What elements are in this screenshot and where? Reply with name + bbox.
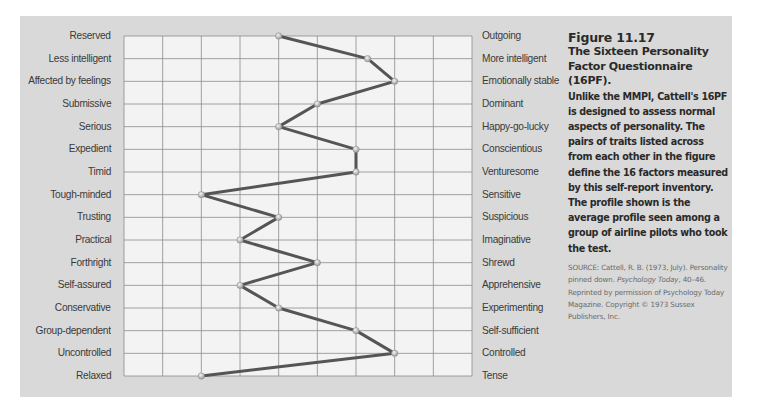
- right-trait-label: Experimenting: [482, 300, 543, 314]
- right-trait-label: Tense: [482, 368, 508, 382]
- data-point-marker: [353, 169, 359, 175]
- left-trait-label: Expedient: [68, 141, 111, 155]
- left-trait-label: Less intelligent: [48, 51, 111, 65]
- left-trait-label: Practical: [75, 232, 111, 246]
- right-trait-label: Emotionally stable: [482, 73, 559, 87]
- data-point-marker: [275, 33, 281, 39]
- left-trait-label: Group-dependent: [36, 323, 111, 337]
- data-point-marker: [364, 55, 370, 61]
- right-trait-label: Self-sufficient: [482, 323, 538, 337]
- right-trait-label: Controlled: [482, 345, 525, 359]
- right-trait-label: Shrewd: [482, 255, 515, 269]
- left-trait-label: Relaxed: [76, 368, 111, 382]
- data-point-marker: [275, 123, 281, 129]
- data-point-marker: [353, 146, 359, 152]
- right-trait-label: Venturesome: [482, 164, 539, 178]
- data-point-marker: [353, 327, 359, 333]
- figure-title: The Sixteen Personality Factor Questionn…: [568, 45, 730, 89]
- left-trait-label: Tough-minded: [50, 187, 111, 201]
- left-trait-label: Affected by feelings: [28, 73, 111, 87]
- right-trait-label: Outgoing: [482, 28, 521, 42]
- data-point-marker: [198, 191, 204, 197]
- data-point-marker: [314, 101, 320, 107]
- data-point-marker: [391, 350, 397, 356]
- left-trait-label: Reserved: [70, 28, 111, 42]
- right-trait-label: More intelligent: [482, 51, 546, 65]
- left-trait-label: Forthright: [70, 255, 111, 269]
- data-point-marker: [275, 305, 281, 311]
- right-trait-label: Suspicious: [482, 209, 528, 223]
- right-trait-label: Sensitive: [482, 187, 521, 201]
- left-trait-label: Self-assured: [57, 277, 111, 291]
- figure-description: Unlike the MMPI, Cattell's 16PF is desig…: [568, 89, 730, 256]
- figure-caption: Figure 11.17 The Sixteen Personality Fac…: [568, 30, 730, 324]
- left-trait-label: Serious: [79, 119, 111, 133]
- left-trait-label: Submissive: [62, 96, 111, 110]
- right-trait-label: Happy-go-lucky: [482, 119, 548, 133]
- grid-background: [124, 36, 472, 376]
- data-point-marker: [237, 237, 243, 243]
- data-point-marker: [314, 259, 320, 265]
- data-point-marker: [275, 214, 281, 220]
- right-trait-label: Imaginative: [482, 232, 531, 246]
- figure-number: Figure 11.17: [568, 30, 730, 45]
- data-point-marker: [391, 78, 397, 84]
- right-trait-label: Apprehensive: [482, 277, 541, 291]
- left-trait-label: Uncontrolled: [57, 345, 111, 359]
- right-trait-label: Dominant: [482, 96, 523, 110]
- left-trait-label: Timid: [88, 164, 111, 178]
- left-trait-label: Conservative: [55, 300, 111, 314]
- source-journal: Psychology Today: [617, 275, 678, 284]
- data-point-marker: [237, 282, 243, 288]
- data-point-marker: [198, 373, 204, 379]
- left-trait-label: Trusting: [77, 209, 111, 223]
- right-trait-label: Conscientious: [482, 141, 542, 155]
- figure-source: SOURCE: Cattell, R. B. (1973, July). Per…: [568, 262, 730, 324]
